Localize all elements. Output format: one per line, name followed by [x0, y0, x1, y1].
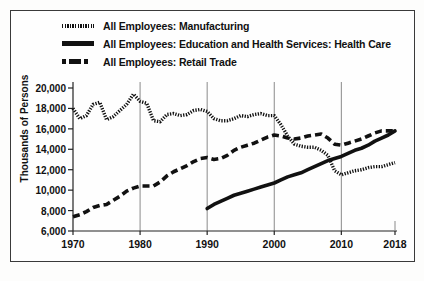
dotted-line-key: [62, 19, 96, 33]
chart-figure: All Employees: Manufacturing All Employe…: [0, 0, 424, 281]
legend-item-health-care: All Employees: Education and Health Serv…: [62, 36, 402, 52]
legend-label-manufacturing: All Employees: Manufacturing: [103, 20, 249, 32]
chart-legend: All Employees: Manufacturing All Employe…: [62, 18, 402, 72]
legend-label-retail-trade: All Employees: Retail Trade: [103, 56, 237, 68]
legend-item-retail-trade: All Employees: Retail Trade: [62, 54, 402, 70]
legend-label-health-care: All Employees: Education and Health Serv…: [103, 38, 391, 50]
dash-dot-line-key: [62, 55, 96, 69]
solid-line-key: [62, 37, 96, 51]
legend-item-manufacturing: All Employees: Manufacturing: [62, 18, 402, 34]
